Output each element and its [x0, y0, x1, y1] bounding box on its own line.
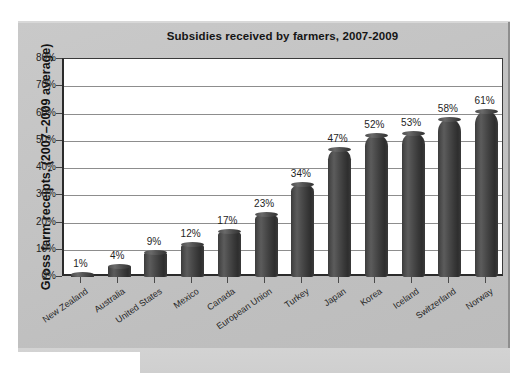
y-axis-tick-label: 0%	[22, 270, 56, 281]
y-axis-tick-mark	[56, 222, 62, 223]
y-axis-tick-mark	[56, 276, 62, 277]
y-axis-tick-mark	[56, 194, 62, 195]
gridline	[64, 195, 502, 196]
bar-value-label: 61%	[463, 95, 507, 106]
bar	[365, 135, 388, 277]
bar	[475, 111, 498, 277]
x-axis-tick-mark	[264, 277, 265, 283]
x-axis-tick-mark	[448, 277, 449, 283]
x-axis-tick-mark	[301, 277, 302, 283]
plot-area	[62, 58, 503, 276]
bar-value-label: 12%	[169, 228, 213, 239]
y-axis-tick-label: 30%	[22, 188, 56, 199]
y-axis-tick-label: 50%	[22, 134, 56, 145]
x-axis-tick-mark	[191, 277, 192, 283]
x-axis-tick-mark	[154, 277, 155, 283]
gridline	[64, 86, 502, 87]
y-axis-tick-mark	[56, 249, 62, 250]
bar	[181, 244, 204, 277]
bar-top-cap	[438, 117, 461, 122]
gridline	[64, 223, 502, 224]
bar-value-label: 53%	[389, 117, 433, 128]
x-axis-tick-mark	[227, 277, 228, 283]
x-axis-tick-mark	[117, 277, 118, 283]
bar-top-cap	[108, 264, 131, 269]
x-axis-tick-mark	[374, 277, 375, 283]
bar-top-cap	[328, 147, 351, 152]
y-axis-tick-mark	[56, 58, 62, 59]
page-bottom-left-notch	[0, 352, 140, 373]
y-axis-tick-label: 20%	[22, 216, 56, 227]
bar-top-cap	[218, 229, 241, 234]
x-axis-tick-mark	[485, 277, 486, 283]
bar	[218, 231, 241, 277]
x-axis-tick-mark	[338, 277, 339, 283]
page-top-margin	[0, 0, 528, 21]
y-axis-tick-mark	[56, 140, 62, 141]
y-axis-tick-mark	[56, 113, 62, 114]
y-axis-tick-mark	[56, 167, 62, 168]
y-axis-tick-mark	[56, 85, 62, 86]
bar	[328, 149, 351, 277]
chart-title: Subsidies received by farmers, 2007-2009	[62, 30, 503, 42]
bar	[438, 119, 461, 277]
x-axis-tick-mark	[411, 277, 412, 283]
page-left-margin	[0, 0, 18, 352]
y-axis-tick-label: 80%	[22, 52, 56, 63]
gridline	[64, 141, 502, 142]
chart-page: Subsidies received by farmers, 2007-2009…	[0, 0, 528, 373]
bar-value-label: 23%	[242, 198, 286, 209]
y-axis-tick-label: 10%	[22, 243, 56, 254]
page-right-margin	[510, 0, 528, 373]
bar	[291, 184, 314, 277]
panel-top-edge	[18, 21, 510, 23]
y-axis-tick-label: 40%	[22, 161, 56, 172]
bar	[144, 252, 167, 277]
x-axis-tick-mark	[80, 277, 81, 283]
y-axis-tick-label: 60%	[22, 107, 56, 118]
bar-top-cap	[475, 109, 498, 114]
bar-value-label: 4%	[95, 250, 139, 261]
y-axis-tick-label: 70%	[22, 79, 56, 90]
bar-value-label: 34%	[279, 168, 323, 179]
bar	[402, 133, 425, 277]
bar-value-label: 47%	[316, 133, 360, 144]
bar-top-cap	[402, 131, 425, 136]
bar	[255, 214, 278, 277]
bar-value-label: 17%	[205, 215, 249, 226]
